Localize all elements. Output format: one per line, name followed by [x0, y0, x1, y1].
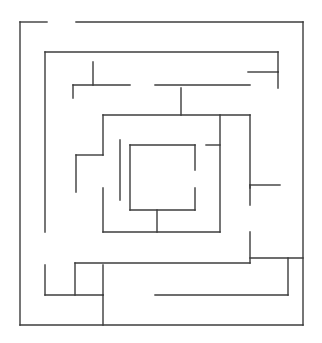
maze-drawing: [0, 0, 322, 343]
maze-canvas: [0, 0, 322, 343]
